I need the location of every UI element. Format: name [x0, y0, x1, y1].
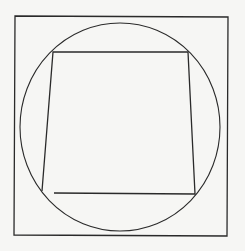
diagram-canvas	[0, 0, 245, 251]
inscribed-circle	[20, 23, 220, 231]
outer-square	[14, 16, 228, 236]
inscribed-quadrilateral	[42, 52, 195, 194]
